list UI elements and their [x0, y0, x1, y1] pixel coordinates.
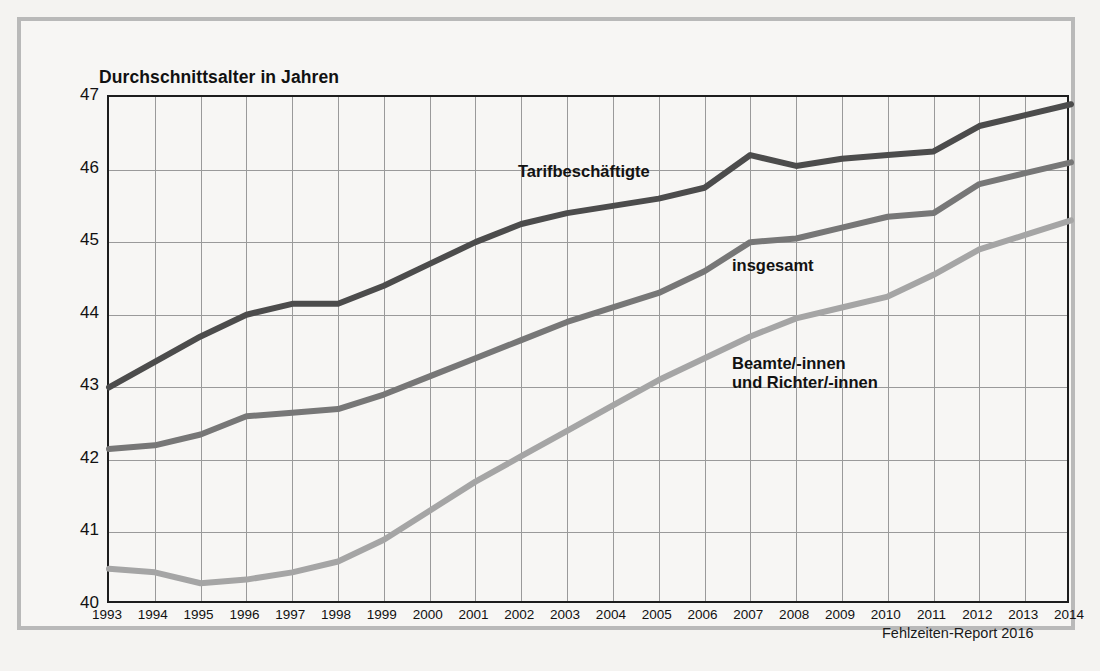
x-tick-label: 1998 [321, 607, 351, 622]
x-tick-label: 2003 [550, 607, 580, 622]
x-tick-label: 1999 [367, 607, 397, 622]
series-label-beamte-line1: Beamte/-innen [732, 354, 878, 373]
series-label-insgesamt: insgesamt [732, 256, 814, 275]
y-tick-label: 44 [80, 303, 99, 323]
x-tick-label: 1996 [229, 607, 259, 622]
source-note: Fehlzeiten-Report 2016 [882, 625, 1034, 641]
x-tick-label: 2005 [642, 607, 672, 622]
series-label-beamte-richter: Beamte/-innen und Richter/-innen [732, 354, 878, 393]
x-tick-label: 2004 [596, 607, 626, 622]
y-tick-label: 43 [80, 375, 99, 395]
x-tick-label: 2000 [413, 607, 443, 622]
x-tick-label: 2002 [504, 607, 534, 622]
x-tick-label: 1995 [184, 607, 214, 622]
figure-frame: Durchschnittsalter in Jahren 40414243444… [17, 17, 1075, 630]
x-tick-label: 2006 [687, 607, 717, 622]
series-label-tarifbeschaeftigte-text: Tarifbeschäftigte [518, 162, 650, 180]
x-tick-label: 2013 [1008, 607, 1038, 622]
x-tick-label: 2001 [458, 607, 488, 622]
series-line [109, 220, 1071, 583]
x-tick-label: 2012 [962, 607, 992, 622]
series-label-tarifbeschaeftigte: Tarifbeschäftigte [518, 162, 650, 181]
y-tick-label: 42 [80, 448, 99, 468]
x-tick-label: 1993 [92, 607, 122, 622]
page-background: Durchschnittsalter in Jahren 40414243444… [0, 0, 1100, 671]
x-tick-label: 2007 [733, 607, 763, 622]
y-tick-label: 45 [80, 230, 99, 250]
x-tick-label: 2011 [917, 607, 946, 622]
series-label-beamte-line2: und Richter/-innen [732, 373, 878, 392]
series-label-insgesamt-text: insgesamt [732, 256, 814, 274]
y-tick-label: 46 [80, 158, 99, 178]
x-tick-label: 2010 [871, 607, 901, 622]
y-tick-label: 41 [80, 520, 99, 540]
x-tick-label: 2008 [779, 607, 809, 622]
y-axis-labels: 4041424344454647 [51, 95, 99, 603]
y-tick-label: 47 [80, 85, 99, 105]
chart-title: Durchschnittsalter in Jahren [99, 67, 339, 88]
x-tick-label: 2009 [825, 607, 855, 622]
series-line [109, 104, 1071, 387]
series-line [109, 162, 1071, 449]
x-tick-label: 2014 [1054, 607, 1084, 622]
x-tick-label: 1997 [275, 607, 305, 622]
x-tick-label: 1994 [138, 607, 168, 622]
